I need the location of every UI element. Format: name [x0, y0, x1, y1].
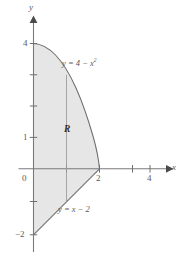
region-label-R: R: [64, 125, 70, 135]
upper-curve-exponent: 2: [94, 57, 97, 63]
upper-curve-equation-text: y = 4 − x: [62, 58, 94, 68]
upper-curve-equation-label: y = 4 − x2: [62, 58, 97, 67]
origin-label: 0: [22, 174, 27, 183]
x-tick-label-2: 2: [96, 174, 101, 183]
parabola-line-region-figure: x y 0 2 4 4 1 −2 y = 4 − x2 y = x − 2 R: [0, 0, 186, 263]
lower-line-equation-label: y = x − 2: [58, 205, 90, 214]
y-tick-label-1: 1: [23, 133, 28, 142]
y-axis-label: y: [29, 3, 33, 12]
y-tick-label-4: 4: [23, 39, 28, 48]
x-tick-label-4: 4: [147, 174, 152, 183]
y-axis-arrowhead: [30, 16, 38, 24]
x-axis-label: x: [172, 163, 176, 172]
y-tick-label-minus-2: −2: [15, 230, 25, 239]
